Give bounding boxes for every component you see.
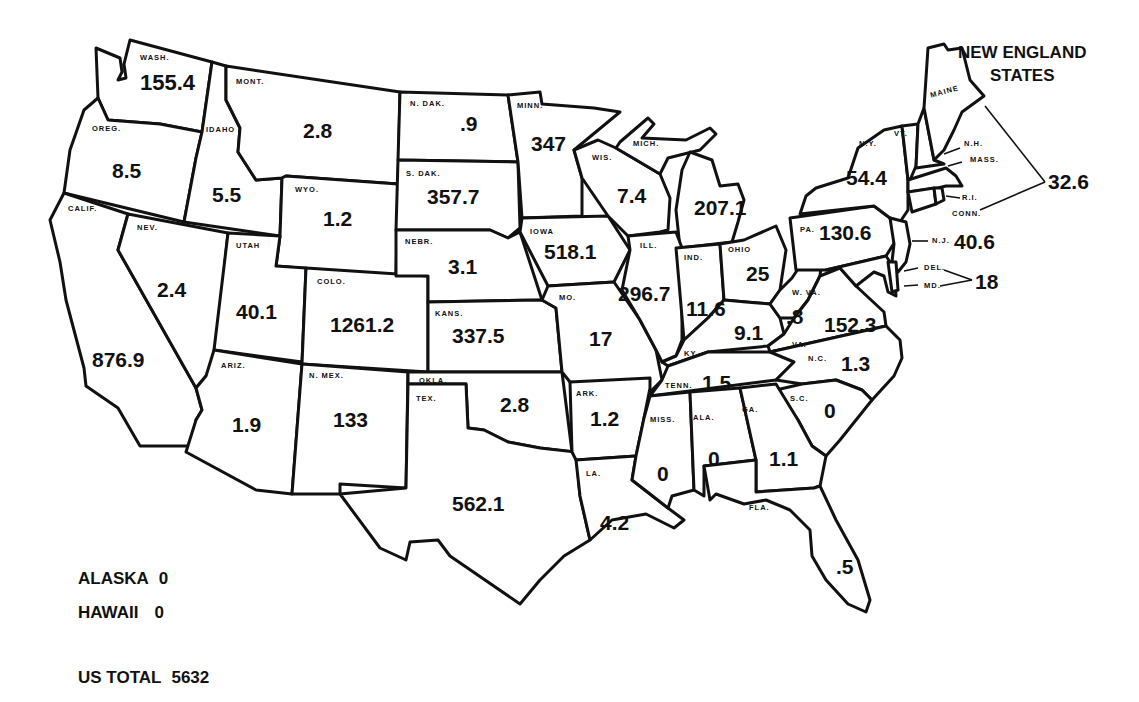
abbr-texas: TEX. bbox=[416, 395, 437, 403]
abbr-illinois: ILL. bbox=[640, 242, 657, 250]
abbr-tennessee: TENN. bbox=[665, 382, 693, 390]
value-idaho: 5.5 bbox=[212, 184, 241, 205]
abbr-washington: WASH. bbox=[140, 54, 170, 62]
abbr-pennsylvania: PA. bbox=[800, 226, 815, 234]
legend-alaska: ALASKA0 bbox=[78, 569, 168, 589]
abbr-arizona: ARIZ. bbox=[221, 362, 246, 370]
value-new-jersey: 40.6 bbox=[954, 231, 995, 252]
legend-alaska-value: 0 bbox=[159, 569, 168, 588]
value-georgia: 1.1 bbox=[769, 448, 798, 469]
abbr-massachusetts: MASS. bbox=[970, 156, 999, 164]
value-south-carolina: 0 bbox=[824, 400, 836, 421]
new-england-title-line1: NEW ENGLAND bbox=[958, 42, 1086, 65]
value-oregon: 8.5 bbox=[112, 160, 141, 181]
value-mississippi: 0 bbox=[657, 463, 669, 484]
map-outline bbox=[0, 0, 1139, 702]
abbr-delaware: DEL. bbox=[924, 264, 945, 272]
abbr-arkansas: ARK. bbox=[576, 390, 598, 398]
value-montana: 2.8 bbox=[303, 120, 332, 141]
us-state-values-map: WASH. OREG. CALIF. IDAHO NEV. MONT. WYO.… bbox=[0, 0, 1139, 702]
abbr-georgia: GA. bbox=[742, 406, 758, 414]
abbr-kentucky: KY. bbox=[684, 350, 699, 358]
value-virginia: 152.3 bbox=[824, 314, 877, 335]
leader-line-conn bbox=[980, 182, 1045, 210]
leader-line-del-bracket bbox=[944, 270, 972, 280]
value-north-dakota: .9 bbox=[460, 113, 478, 134]
value-florida: .5 bbox=[836, 556, 854, 577]
abbr-oregon: OREG. bbox=[92, 125, 121, 133]
legend-hawaii-label: HAWAII bbox=[78, 603, 138, 622]
legend-alaska-label: ALASKA bbox=[78, 569, 149, 588]
abbr-north-carolina: N.C. bbox=[808, 355, 827, 363]
abbr-south-dakota: S. DAK. bbox=[406, 170, 441, 178]
value-alabama: 0 bbox=[708, 448, 720, 469]
abbr-maryland: MD. bbox=[924, 282, 941, 290]
abbr-rhode-island: R.I. bbox=[962, 194, 978, 202]
value-new-mexico: 133 bbox=[333, 409, 368, 430]
value-arizona: 1.9 bbox=[232, 414, 261, 435]
abbr-michigan: MICH. bbox=[633, 140, 659, 148]
value-del-md: 18 bbox=[975, 271, 998, 292]
legend-hawaii-value: 0 bbox=[154, 603, 163, 622]
leader-line-md-bracket bbox=[940, 280, 972, 286]
value-michigan: 207.1 bbox=[694, 197, 747, 218]
value-oklahoma: 2.8 bbox=[500, 394, 529, 415]
value-new-england: 32.6 bbox=[1048, 171, 1089, 192]
value-new-york: 54.4 bbox=[846, 167, 887, 188]
new-england-title-line2: STATES bbox=[958, 65, 1086, 88]
value-wyoming: 1.2 bbox=[323, 208, 352, 229]
leader-line-ri bbox=[946, 196, 960, 198]
value-missouri: 17 bbox=[589, 328, 612, 349]
abbr-new-mexico: N. MEX. bbox=[309, 372, 344, 380]
abbr-nebraska: NEBR. bbox=[405, 238, 433, 246]
leader-line-md bbox=[904, 285, 918, 286]
abbr-wyoming: WYO. bbox=[295, 186, 319, 194]
state-rhode-island-shape bbox=[934, 188, 944, 204]
value-texas: 562.1 bbox=[452, 493, 505, 514]
abbr-montana: MONT. bbox=[236, 78, 264, 86]
abbr-indiana: IND. bbox=[684, 254, 703, 262]
abbr-utah: UTAH bbox=[236, 242, 260, 250]
abbr-oklahoma: OKLA. bbox=[419, 377, 447, 385]
leader-line-mass bbox=[948, 162, 962, 166]
value-nevada: 2.4 bbox=[157, 279, 186, 300]
value-indiana: 11.6 bbox=[686, 298, 726, 319]
abbr-kansas: KANS. bbox=[435, 310, 463, 318]
abbr-wisconsin: WIS. bbox=[592, 154, 612, 162]
abbr-idaho: IDAHO bbox=[206, 126, 235, 134]
value-north-carolina: 1.3 bbox=[841, 353, 870, 374]
new-england-title: NEW ENGLAND STATES bbox=[958, 42, 1086, 88]
abbr-new-hampshire: N.H. bbox=[964, 140, 983, 148]
abbr-minnesota: MINN. bbox=[517, 102, 543, 110]
value-kentucky: 9.1 bbox=[734, 322, 763, 343]
abbr-vermont: VT. bbox=[894, 130, 908, 138]
value-ohio: 25 bbox=[746, 263, 769, 284]
abbr-virginia: VA. bbox=[792, 341, 807, 349]
value-west-virginia: .8 bbox=[786, 306, 804, 327]
value-arkansas: 1.2 bbox=[590, 408, 619, 429]
abbr-ohio: OHIO bbox=[728, 246, 751, 254]
legend-hawaii: HAWAII0 bbox=[78, 603, 164, 623]
abbr-mississippi: MISS. bbox=[650, 416, 675, 424]
value-nebraska: 3.1 bbox=[448, 256, 477, 277]
value-tennessee: 1.5 bbox=[702, 372, 731, 393]
abbr-louisiana: LA. bbox=[586, 470, 601, 478]
abbr-nevada: NEV. bbox=[137, 224, 158, 232]
leader-line-del bbox=[904, 268, 918, 271]
value-california: 876.9 bbox=[92, 349, 145, 370]
abbr-alabama: ALA. bbox=[693, 414, 715, 422]
abbr-west-virginia: W. VA. bbox=[792, 289, 821, 297]
legend-total-value: 5632 bbox=[171, 668, 209, 687]
value-pennsylvania: 130.6 bbox=[819, 222, 872, 243]
value-south-dakota: 357.7 bbox=[427, 186, 480, 207]
abbr-california: CALIF. bbox=[68, 205, 97, 213]
value-illinois: 296.7 bbox=[618, 283, 671, 304]
legend-us-total: US TOTAL5632 bbox=[78, 668, 209, 688]
value-kansas: 337.5 bbox=[452, 325, 505, 346]
value-minnesota: 347 bbox=[531, 133, 566, 154]
legend-total-label: US TOTAL bbox=[78, 668, 161, 687]
abbr-new-york: N.Y. bbox=[859, 140, 877, 148]
value-louisiana: 4.2 bbox=[600, 512, 629, 533]
abbr-north-dakota: N. DAK. bbox=[410, 100, 445, 108]
leader-line-maine bbox=[985, 106, 1045, 182]
